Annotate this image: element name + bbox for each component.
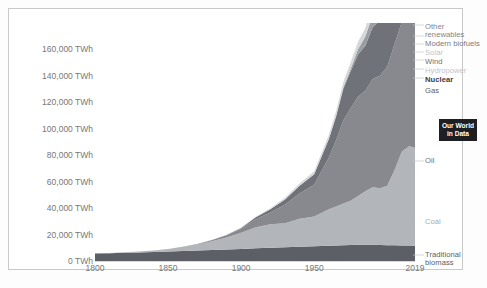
x-axis-line <box>95 261 415 262</box>
our-world-in-data-logo: Our World in Data <box>439 119 477 141</box>
x-axis-tick: 1800 <box>86 263 105 273</box>
chart-page: 0 TWh20,000 TWh40,000 TWh60,000 TWh80,00… <box>0 0 487 288</box>
y-axis-tick: 140,000 TWh <box>42 72 93 81</box>
series-label-other-renewables: Other renewables <box>425 23 464 40</box>
stacked-area-svg <box>95 23 415 261</box>
x-axis-tick: 1950 <box>305 263 324 273</box>
series-label-traditional-biomass: Traditional biomass <box>425 251 461 268</box>
y-axis-tick: 20,000 TWh <box>47 231 93 240</box>
x-axis: 18001850190019502019 <box>95 263 425 277</box>
x-axis-tick: 1850 <box>159 263 178 273</box>
chart-frame: 0 TWh20,000 TWh40,000 TWh60,000 TWh80,00… <box>8 8 463 270</box>
y-axis-tick: 80,000 TWh <box>47 151 93 160</box>
y-axis-tick: 160,000 TWh <box>42 45 93 54</box>
plot-area <box>95 23 415 261</box>
y-axis-tick: 60,000 TWh <box>47 178 93 187</box>
series-label-ticks <box>413 19 425 271</box>
series-label-oil: Oil <box>425 157 434 165</box>
y-axis-tick: 40,000 TWh <box>47 204 93 213</box>
series-labels: Other renewables Modern biofuels Solar W… <box>421 19 487 271</box>
series-label-nuclear: Nuclear <box>425 76 453 84</box>
y-axis-tick: 100,000 TWh <box>42 125 93 134</box>
x-axis-tick: 1900 <box>232 263 251 273</box>
y-axis-tick: 120,000 TWh <box>42 98 93 107</box>
series-label-coal: Coal <box>425 218 441 226</box>
series-label-gas: Gas <box>425 87 439 95</box>
y-axis: 0 TWh20,000 TWh40,000 TWh60,000 TWh80,00… <box>23 23 93 261</box>
